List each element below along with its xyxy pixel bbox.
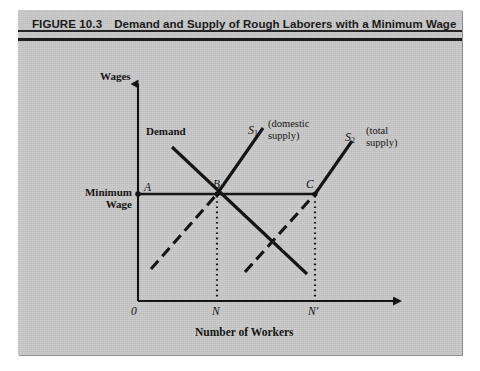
- figure-root: FIGURE 10.3 Demand and Supply of Rough L…: [0, 0, 480, 371]
- point-label-a: A: [144, 181, 151, 194]
- s2-curve-solid-segment: [315, 141, 352, 194]
- minimum-wage-label-line1: Minimum: [55, 186, 132, 198]
- s1-curve-dashed-segment: [151, 194, 217, 269]
- x-tick-n-prime: N': [308, 305, 318, 318]
- point-label-b: B: [213, 178, 220, 191]
- s1-subscript: 1: [254, 129, 258, 138]
- minimum-wage-label-line2: Wage: [55, 198, 132, 210]
- point-a-dot: [135, 191, 141, 197]
- x-tick-n: N: [212, 305, 220, 318]
- point-b-dot: [214, 191, 219, 196]
- s2-note-line2: supply): [366, 137, 398, 149]
- x-axis-label: Number of Workers: [195, 326, 294, 339]
- s2-curve-dashed-segment: [245, 194, 315, 272]
- y-axis-label: Wages: [100, 70, 131, 82]
- demand-curve-label: Demand: [146, 125, 186, 137]
- s2-subscript: 2: [351, 136, 355, 145]
- demand-curve: [172, 147, 307, 274]
- s1-note: (domestic supply): [268, 118, 309, 142]
- point-label-c: C: [306, 178, 314, 191]
- s1-curve-label: S1: [248, 120, 258, 139]
- s2-curve-label: S2: [345, 127, 355, 146]
- s1-note-line2: supply): [268, 130, 309, 142]
- s1-note-line1: (domestic: [268, 118, 309, 130]
- minimum-wage-label: Minimum Wage: [55, 186, 132, 211]
- s2-note-line1: (total: [366, 125, 398, 137]
- s2-note: (total supply): [366, 125, 398, 149]
- point-c-dot: [312, 191, 317, 196]
- origin-label: 0: [131, 305, 137, 318]
